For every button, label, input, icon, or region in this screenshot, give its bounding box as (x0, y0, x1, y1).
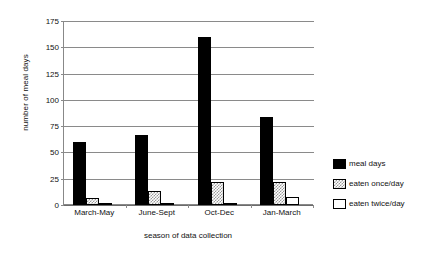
y-axis-tick-label: 175 (29, 17, 59, 26)
chart-figure: number of meal days 0255075100125150175 … (0, 0, 429, 254)
bar (260, 117, 273, 205)
bar (148, 191, 161, 205)
legend-swatch-icon (333, 179, 346, 189)
bar-group (198, 21, 237, 205)
x-axis-tick-label: Jan-March (251, 208, 314, 217)
x-axis-tick-label: June-Sept (126, 208, 189, 217)
legend-label: eaten twice/day (349, 199, 405, 208)
legend-label: eaten once/day (349, 179, 404, 188)
x-axis-tick-label: March-May (63, 208, 126, 217)
chart-legend: meal dayseaten once/dayeaten twice/day (333, 158, 427, 218)
y-axis-tick-label: 75 (29, 122, 59, 131)
bar-groups (63, 21, 313, 205)
bar-group (135, 21, 174, 205)
bar (224, 203, 237, 205)
legend-item: eaten once/day (333, 178, 427, 189)
y-axis-tick-label: 100 (29, 96, 59, 105)
bar (273, 182, 286, 205)
bar (198, 37, 211, 205)
y-axis-tick-label: 0 (29, 201, 59, 210)
bar (99, 203, 112, 205)
y-axis-tick-label: 25 (29, 175, 59, 184)
legend-item: meal days (333, 158, 427, 169)
bar (135, 135, 148, 205)
x-axis-title: season of data collection (63, 231, 313, 240)
y-axis-tick-label: 125 (29, 70, 59, 79)
y-axis-tick-label: 150 (29, 43, 59, 52)
bar-group (73, 21, 112, 205)
legend-label: meal days (349, 159, 385, 168)
bar (286, 197, 299, 205)
bar (211, 182, 224, 205)
bar (161, 203, 174, 205)
y-axis-tick-labels: 0255075100125150175 (28, 21, 59, 205)
legend-swatch-icon (333, 199, 346, 209)
legend-swatch-icon (333, 159, 346, 169)
x-axis-tick-label: Oct-Dec (188, 208, 251, 217)
x-axis-tick-labels: March-MayJune-SeptOct-DecJan-March (63, 208, 313, 222)
bar (73, 142, 86, 205)
legend-item: eaten twice/day (333, 198, 427, 209)
bar (86, 198, 99, 205)
x-axis-tick (313, 205, 314, 208)
y-axis-tick (61, 205, 64, 206)
gridline (64, 205, 314, 206)
y-axis-tick-label: 50 (29, 148, 59, 157)
bar-group (260, 21, 299, 205)
